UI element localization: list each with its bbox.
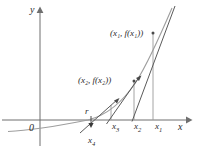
function-curve: [8, 8, 172, 132]
tick-label-x2: x2: [134, 122, 141, 133]
tick-label-x4: x4: [88, 136, 95, 147]
origin-label: 0: [29, 123, 34, 133]
newtons-method-figure: y x 0 (x₁, f(x₁)) (x₂, f(x₂)) r x4 x3 x2…: [0, 0, 200, 164]
x-axis-label: x: [178, 122, 182, 132]
y-axis-arrowhead: [37, 7, 44, 14]
x-axis-arrowhead: [186, 117, 193, 124]
tick-label-x1-sub: 1: [159, 126, 162, 133]
y-axis-label: y: [30, 5, 34, 15]
point-label-x1: (x₁, f(x₁)): [110, 29, 143, 38]
root-label: r: [85, 107, 89, 116]
point-marker-x2: [133, 80, 136, 83]
tangent-line-at-x2: [107, 76, 141, 124]
tick-label-x3-sub: 3: [116, 126, 119, 133]
tangent-line-at-x1: [132, 6, 175, 122]
tick-label-x1: x1: [155, 122, 162, 133]
tick-label-x2-sub: 2: [138, 126, 141, 133]
tick-label-x4-sub: 4: [92, 140, 95, 147]
root-pointer-arrowhead: [88, 123, 93, 128]
point-label-x2: (x₂, f(x₂)): [78, 76, 111, 85]
point-marker-x1: [152, 32, 155, 35]
tick-label-x3: x3: [112, 122, 119, 133]
y-axis: [37, 7, 44, 147]
